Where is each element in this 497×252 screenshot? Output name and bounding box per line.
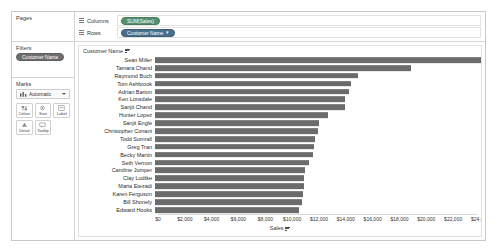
bar-mark[interactable]: [155, 65, 411, 71]
row-field-header-group: Customer Name: [83, 48, 130, 54]
tableau-worksheet: Pages Filters Customer Name Marks Automa…: [11, 11, 486, 241]
bar-mark[interactable]: [155, 191, 303, 197]
bar-row[interactable]: Ken Lonsdale: [79, 95, 481, 103]
bar-row[interactable]: Bill Shonely: [79, 198, 481, 206]
bar-row[interactable]: Karen Ferguson: [79, 190, 481, 198]
bar-row-label: Becky Martin: [79, 152, 155, 158]
bar-row[interactable]: Sanjit Chand: [79, 103, 481, 111]
bar-row[interactable]: Edward Hooks: [79, 206, 481, 214]
bar-row-label: Clay Ludtke: [79, 175, 155, 181]
bar-row[interactable]: Tamara Chand: [79, 64, 481, 72]
bar-row[interactable]: Raymond Buch: [79, 72, 481, 80]
bar-mark[interactable]: [155, 81, 351, 87]
bar-row[interactable]: Christopher Conant: [79, 127, 481, 135]
bar-mark[interactable]: [155, 136, 315, 142]
columns-shelf-dropzone[interactable]: SUM(Sales): [117, 15, 481, 26]
bar-mark[interactable]: [155, 128, 318, 134]
bar-track: [155, 88, 481, 96]
marks-button-detail[interactable]: Detail: [16, 120, 33, 135]
x-axis[interactable]: $0$2,000$4,000$6,000$8,000$10,000$12,000…: [79, 214, 481, 236]
marks-type-dropdown[interactable]: Automatic: [16, 89, 70, 99]
bar-mark[interactable]: [155, 97, 345, 103]
bar-track: [155, 119, 481, 127]
marks-button-label[interactable]: Label: [53, 103, 70, 118]
row-field-header[interactable]: Customer Name: [79, 46, 481, 56]
x-axis-tick-label: $20,000: [417, 216, 435, 222]
bar-row[interactable]: Seth Vernon: [79, 159, 481, 167]
visualization-canvas[interactable]: Customer Name Sean MillerTamara ChandRay…: [78, 45, 482, 237]
bar-mark[interactable]: [155, 168, 305, 174]
bar-mark[interactable]: [155, 57, 482, 63]
bar-mark[interactable]: [155, 175, 304, 181]
rows-pill-label: Customer Name: [127, 30, 163, 36]
x-axis-line: [158, 214, 477, 215]
bar-row[interactable]: Todd Sumrall: [79, 135, 481, 143]
bar-mark[interactable]: [155, 89, 349, 95]
bar-row[interactable]: Becky Martin: [79, 151, 481, 159]
bar-mark[interactable]: [155, 112, 328, 118]
marks-button-colour[interactable]: Colour: [16, 103, 33, 118]
columns-shelf-label-group: Columns: [79, 18, 117, 24]
bar-row-label: Sanjit Chand: [79, 104, 155, 110]
bar-row-label: Greg Tran: [79, 144, 155, 150]
bar-track: [155, 103, 481, 111]
columns-pill-sum-sales[interactable]: SUM(Sales): [121, 17, 160, 25]
sort-descending-icon[interactable]: [125, 48, 130, 53]
bar-row[interactable]: Maria Etezadi: [79, 182, 481, 190]
filter-pill-customer-name[interactable]: Customer Name: [16, 53, 64, 61]
bar-row-label: Tom Ashbrook: [79, 81, 155, 87]
bar-mark[interactable]: [155, 104, 345, 110]
bar-track: [155, 80, 481, 88]
sort-descending-icon[interactable]: [285, 226, 290, 231]
filters-shelf[interactable]: Filters Customer Name: [12, 42, 74, 78]
rows-pill-customer-name[interactable]: Customer Name ▾: [121, 29, 175, 37]
x-axis-tick-label: $22,000: [444, 216, 462, 222]
bar-row[interactable]: Sanjit Engle: [79, 119, 481, 127]
rows-shelf-label-group: Rows: [79, 30, 117, 36]
bar-row[interactable]: Caroline Jumper: [79, 166, 481, 174]
grip-icon: [79, 18, 84, 23]
bar-row[interactable]: Hunter Lopez: [79, 111, 481, 119]
marks-button-detail-label: Detail: [19, 129, 29, 133]
marks-button-tooltip[interactable]: Tooltip: [35, 120, 52, 135]
x-axis-tick-label: $12,000: [310, 216, 328, 222]
bar-mark[interactable]: [155, 120, 319, 126]
bar-mark[interactable]: [155, 199, 302, 205]
x-axis-title-group[interactable]: Sales: [79, 225, 481, 231]
marks-card-title: Marks: [16, 81, 70, 87]
x-axis-title: Sales: [270, 225, 284, 231]
rows-shelf-dropzone[interactable]: Customer Name ▾: [117, 27, 481, 38]
columns-shelf-label: Columns: [87, 18, 109, 24]
bar-row[interactable]: Clay Ludtke: [79, 174, 481, 182]
marks-buttons-row-2: Detail Tooltip: [16, 120, 70, 135]
pages-shelf-title: Pages: [16, 15, 70, 21]
bar-mark[interactable]: [155, 152, 313, 158]
bar-mark[interactable]: [155, 144, 314, 150]
x-axis-tick-label: $0: [155, 216, 161, 222]
bar-track: [155, 174, 481, 182]
marks-button-size[interactable]: Size: [35, 103, 52, 118]
bar-row[interactable]: Greg Tran: [79, 143, 481, 151]
bar-track: [155, 182, 481, 190]
bar-row-label: Karen Ferguson: [79, 191, 155, 197]
bar-track: [155, 190, 481, 198]
filters-shelf-title: Filters: [16, 45, 70, 51]
bar-row[interactable]: Sean Miller: [79, 56, 481, 64]
bar-row-label: Sanjit Engle: [79, 120, 155, 126]
bar-row[interactable]: Tom Ashbrook: [79, 80, 481, 88]
bar-row-label: Edward Hooks: [79, 207, 155, 213]
pages-shelf[interactable]: Pages: [12, 12, 74, 42]
bar-mark[interactable]: [155, 207, 299, 213]
bar-mark[interactable]: [155, 183, 304, 189]
bar-row-label: Sean Miller: [79, 57, 155, 63]
rows-shelf-row: Rows Customer Name ▾: [79, 27, 481, 38]
bar-row-label: Ken Lonsdale: [79, 96, 155, 102]
bar-mark[interactable]: [155, 160, 309, 166]
bar-row-label: Adrian Barton: [79, 89, 155, 95]
bar-track: [155, 151, 481, 159]
x-axis-tick-label: $2,000: [177, 216, 192, 222]
bar-track: [155, 56, 481, 64]
bar-row[interactable]: Adrian Barton: [79, 88, 481, 96]
bar-track: [155, 198, 481, 206]
bar-mark[interactable]: [155, 73, 358, 79]
